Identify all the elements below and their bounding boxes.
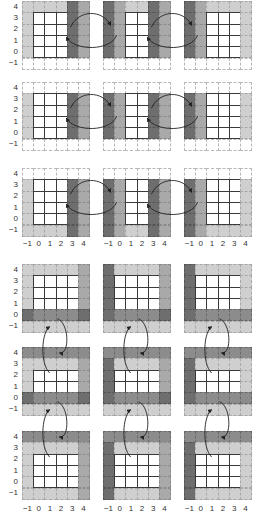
top-grid [22,1,89,69]
top-grid [22,168,89,236]
y-tick-label: 1 [4,118,18,126]
x-tick-label: 0 [114,240,125,248]
x-tick-label: −1 [184,240,195,248]
x-tick-label: 4 [240,505,251,513]
bottom-grid [184,347,251,415]
y-tick-label: 2 [4,371,18,379]
y-tick-label: 3 [4,14,18,22]
y-tick-label: 1 [4,383,18,391]
x-tick-label: 2 [218,505,229,513]
x-tick-label: 0 [195,505,206,513]
bottom-grid [103,347,170,415]
grid-cell [240,488,252,500]
grid-cell [159,321,171,333]
y-tick-label: 2 [4,192,18,200]
grid-cell [240,404,252,416]
y-tick-label: 4 [4,84,18,92]
x-tick-label: 0 [114,505,125,513]
top-grid [184,82,251,150]
x-tick-label: −1 [22,505,33,513]
grid-cell [78,488,90,500]
x-tick-label: 4 [159,505,170,513]
bottom-grid [184,431,251,499]
grid-cell [78,225,90,237]
y-tick-label: 4 [4,349,18,357]
y-tick-label: −1 [4,489,18,497]
x-tick-label: 4 [78,505,89,513]
top-grid [22,82,89,150]
top-grid [103,168,170,236]
y-tick-label: 3 [4,277,18,285]
x-tick-label: 2 [56,240,67,248]
y-tick-label: 1 [4,37,18,45]
grid-cell [159,225,171,237]
grid-cell [78,404,90,416]
x-tick-label: 2 [137,240,148,248]
grid-cell [240,225,252,237]
x-tick-label: 0 [195,240,206,248]
y-tick-label: 2 [4,288,18,296]
x-tick-label: 3 [67,505,78,513]
y-tick-label: 0 [4,215,18,223]
y-tick-label: 3 [4,360,18,368]
grid-cell [159,139,171,151]
y-tick-label: 1 [4,300,18,308]
x-tick-label: 0 [33,240,44,248]
grid-cell [240,139,252,151]
x-tick-label: 1 [206,505,217,513]
x-tick-label: 2 [56,505,67,513]
x-tick-label: 2 [137,505,148,513]
x-tick-label: −1 [184,505,195,513]
y-tick-label: 3 [4,444,18,452]
x-tick-label: 2 [218,240,229,248]
top-grid [103,1,170,69]
x-tick-label: −1 [103,505,114,513]
y-tick-label: 4 [4,3,18,11]
x-tick-label: 3 [148,240,159,248]
grid-cell [159,488,171,500]
y-tick-label: −1 [4,405,18,413]
y-tick-label: 4 [4,266,18,274]
y-tick-label: 0 [4,129,18,137]
grid-cell [159,404,171,416]
y-tick-label: 2 [4,106,18,114]
y-tick-label: −1 [4,140,18,148]
y-tick-label: 1 [4,467,18,475]
y-tick-label: −1 [4,226,18,234]
x-tick-label: 4 [159,240,170,248]
y-tick-label: 0 [4,311,18,319]
bottom-grid [103,264,170,332]
x-tick-label: 1 [206,240,217,248]
x-tick-label: 3 [148,505,159,513]
y-tick-label: 0 [4,48,18,56]
x-tick-label: −1 [22,240,33,248]
grid-cell [240,321,252,333]
top-grid [103,82,170,150]
x-tick-label: 3 [229,505,240,513]
y-tick-label: −1 [4,59,18,67]
x-tick-label: 1 [44,505,55,513]
x-tick-label: 4 [240,240,251,248]
x-tick-label: 0 [33,505,44,513]
grid-cell [159,58,171,70]
bottom-grid [103,431,170,499]
x-tick-label: 1 [125,505,136,513]
y-tick-label: 4 [4,433,18,441]
y-tick-label: 3 [4,181,18,189]
x-tick-label: 3 [229,240,240,248]
y-tick-label: 4 [4,170,18,178]
y-tick-label: 0 [4,478,18,486]
grid-cell [78,139,90,151]
y-tick-label: 2 [4,25,18,33]
y-tick-label: 2 [4,455,18,463]
y-tick-label: 1 [4,204,18,212]
y-tick-label: 0 [4,394,18,402]
bottom-grid [22,431,89,499]
bottom-grid [22,264,89,332]
y-tick-label: 3 [4,95,18,103]
top-grid [184,168,251,236]
grid-cell [240,58,252,70]
y-tick-label: −1 [4,322,18,330]
x-tick-label: 3 [67,240,78,248]
bottom-grid [22,347,89,415]
